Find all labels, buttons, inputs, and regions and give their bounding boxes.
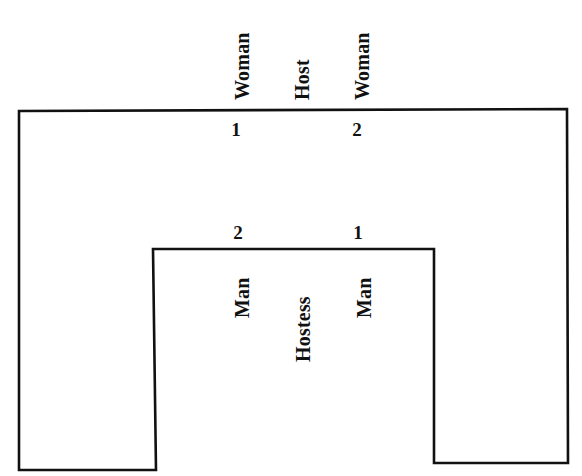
seat-label-host: Host [292, 59, 312, 100]
seat-number-woman-2: 2 [347, 120, 367, 139]
seat-number-man-1: 1 [348, 223, 368, 242]
seat-number-man-2: 2 [228, 223, 248, 242]
seat-label-man-2: Man [232, 277, 252, 318]
seat-label-hostess: Hostess [293, 296, 313, 362]
seat-label-woman-1: Woman [232, 32, 252, 100]
seat-label-man-1: Man [354, 277, 374, 318]
seat-number-woman-1: 1 [226, 120, 246, 139]
figure-canvas: Woman Host Woman 1 2 2 1 Man Hostess Man [0, 0, 582, 476]
seat-label-woman-2: Woman [352, 32, 372, 100]
table-outline-path [19, 109, 568, 470]
